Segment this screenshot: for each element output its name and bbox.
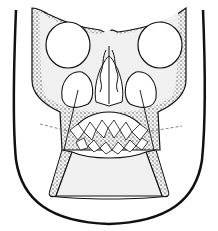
anatomical-diagram	[0, 0, 218, 231]
tongue-area	[56, 152, 162, 196]
right-orbit	[138, 22, 182, 68]
left-orbit	[46, 22, 90, 68]
